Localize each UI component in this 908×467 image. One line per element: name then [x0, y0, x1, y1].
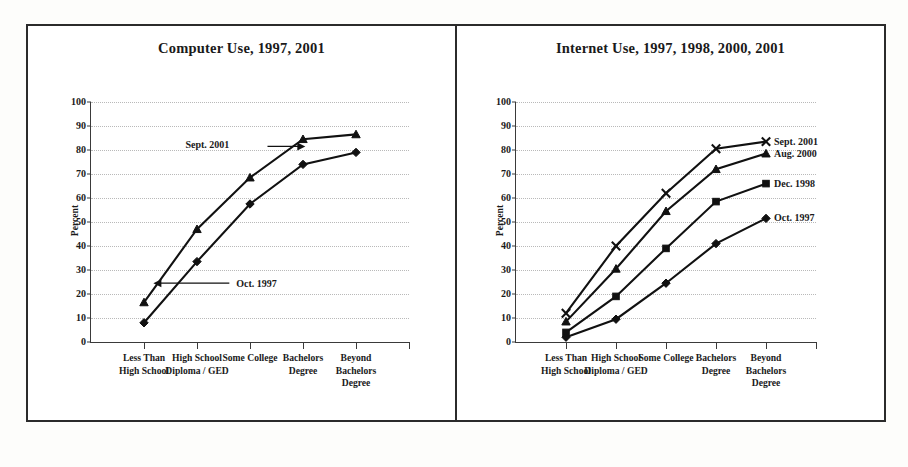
chart-computer-use: 0102030405060708090100Less Than High Sch… — [28, 26, 455, 420]
x-tick-mark — [666, 342, 667, 349]
plot-area: 0102030405060708090100Less Than High Sch… — [515, 102, 816, 343]
series-layer — [91, 102, 409, 342]
series-label: Oct. 1997 — [774, 212, 815, 223]
y-axis-tick-label: 100 — [496, 97, 511, 107]
y-axis-tick-label: 20 — [501, 289, 511, 299]
y-axis-title: Percent — [69, 193, 80, 249]
annotation-oct-1997: Oct. 1997 — [236, 278, 277, 289]
plot-area: 0102030405060708090100Less Than High Sch… — [90, 102, 409, 343]
panel-computer-use: Computer Use, 1997, 2001 010203040506070… — [28, 26, 457, 420]
y-axis-tick-label: 70 — [76, 169, 86, 179]
y-axis-tick-label: 100 — [71, 97, 86, 107]
y-axis-title: Percent — [494, 193, 505, 249]
series-label: Aug. 2000 — [774, 147, 817, 158]
x-tick-mark — [816, 342, 817, 349]
series-1 — [562, 137, 770, 317]
y-axis-tick-label: 0 — [81, 337, 86, 347]
y-axis-tick-label: 70 — [501, 169, 511, 179]
x-axis-tick-label: Beyond Bachelors Degree — [723, 352, 809, 390]
annotation-sept-2001: Sept. 2001 — [185, 139, 229, 150]
series-2 — [562, 149, 770, 325]
y-axis-tick-label: 80 — [76, 145, 86, 155]
x-tick-mark — [409, 342, 410, 349]
series-layer — [516, 102, 816, 342]
y-axis-tick-label: 90 — [501, 121, 511, 131]
x-tick-mark — [144, 342, 145, 349]
y-axis-tick-label: 0 — [506, 337, 511, 347]
series-label: Sept. 2001 — [774, 135, 818, 146]
chart-frame: Computer Use, 1997, 2001 010203040506070… — [26, 24, 886, 422]
x-tick-mark — [766, 342, 767, 349]
chart-internet-use: 0102030405060708090100Less Than High Sch… — [457, 26, 884, 420]
y-axis-tick-label: 30 — [501, 265, 511, 275]
chart-page: Computer Use, 1997, 2001 010203040506070… — [0, 0, 908, 467]
panel-internet-use: Internet Use, 1997, 1998, 2000, 2001 010… — [457, 26, 884, 420]
x-tick-mark — [303, 342, 304, 349]
x-tick-mark — [566, 342, 567, 349]
y-axis-tick-label: 10 — [501, 313, 511, 323]
x-tick-mark — [250, 342, 251, 349]
x-tick-mark — [356, 342, 357, 349]
y-axis-tick-label: 10 — [76, 313, 86, 323]
x-tick-mark — [197, 342, 198, 349]
x-tick-mark — [616, 342, 617, 349]
y-axis-tick-label: 20 — [76, 289, 86, 299]
series-3 — [563, 180, 770, 335]
series-label: Dec. 1998 — [774, 177, 815, 188]
y-axis-tick-label: 90 — [76, 121, 86, 131]
x-tick-mark — [716, 342, 717, 349]
y-axis-tick-label: 30 — [76, 265, 86, 275]
y-axis-tick-label: 80 — [501, 145, 511, 155]
x-axis-tick-label: Beyond Bachelors Degree — [313, 352, 399, 390]
